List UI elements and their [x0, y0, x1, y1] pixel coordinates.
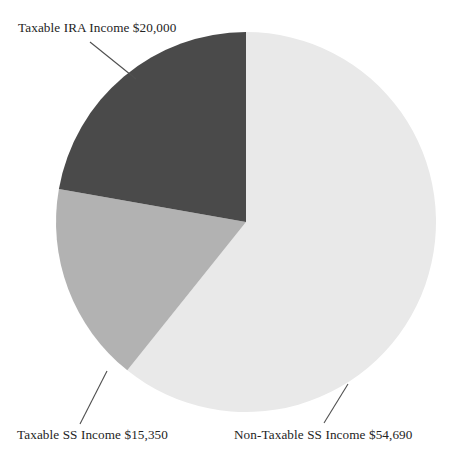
pie-slice-ira[interactable] — [59, 32, 246, 222]
pie-chart-figure: Taxable IRA Income $20,000 Taxable SS In… — [0, 0, 456, 463]
slice-label-nontaxable-ss: Non-Taxable SS Income $54,690 — [234, 428, 413, 443]
pie-chart-svg — [0, 0, 456, 463]
leader-line-taxable-ss — [80, 371, 107, 424]
slice-label-taxable-ss: Taxable SS Income $15,350 — [17, 428, 168, 443]
leader-line-ira — [90, 42, 136, 79]
slice-label-ira: Taxable IRA Income $20,000 — [18, 21, 176, 36]
